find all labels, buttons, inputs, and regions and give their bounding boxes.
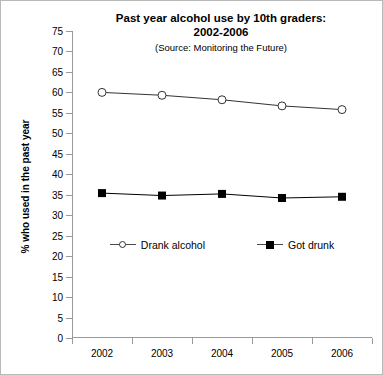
y-tick-label: 30 [23,210,63,221]
y-tick-label: 55 [23,107,63,118]
chart-legend: Drank alcoholGot drunk [72,239,372,251]
legend-marker [266,241,274,249]
data-point-open-circle [158,91,166,99]
data-point-open-circle [278,102,286,110]
y-tick-label: 10 [23,292,63,303]
series-1 [98,88,346,113]
x-tick-mark [132,338,133,344]
legend-label: Drank alcohol [141,239,205,251]
data-point-filled-square [278,194,286,202]
y-tick-label: 60 [23,87,63,98]
x-tick-mark [192,338,193,344]
x-tick-label: 2005 [271,348,293,359]
legend-item-1[interactable]: Drank alcohol [110,239,205,251]
y-tick-label: 65 [23,66,63,77]
y-tick-label: 35 [23,189,63,200]
legend-item-2[interactable]: Got drunk [257,239,334,251]
data-point-open-circle [338,106,346,114]
data-point-filled-square [218,190,226,198]
x-tick-label: 2006 [331,348,353,359]
data-point-filled-square [338,193,346,201]
y-tick-label: 70 [23,46,63,57]
series-2 [98,189,346,202]
data-point-open-circle [98,88,106,96]
legend-marker [119,241,126,248]
data-point-filled-square [158,192,166,200]
data-point-open-circle [218,96,226,104]
x-tick-mark [72,338,73,344]
open-circle-icon [110,240,136,249]
x-tick-label: 2004 [211,348,233,359]
y-tick-label: 75 [23,26,63,37]
y-tick-label: 50 [23,128,63,139]
series-layer [72,31,372,338]
x-tick-label: 2003 [151,348,173,359]
x-tick-mark [372,338,373,344]
plot-area: 051015202530354045505560657075 200220032… [72,31,372,338]
y-tick-label: 0 [23,333,63,344]
legend-label: Got drunk [288,239,334,251]
y-tick-label: 25 [23,230,63,241]
data-point-filled-square [98,189,106,197]
x-tick-mark [312,338,313,344]
y-tick-label: 40 [23,169,63,180]
chart-figure: Past year alcohol use by 10th graders: 2… [0,0,383,375]
y-tick-label: 15 [23,271,63,282]
y-tick-label: 5 [23,312,63,323]
filled-square-icon [257,240,283,249]
y-tick-label: 20 [23,251,63,262]
x-tick-mark [252,338,253,344]
x-tick-label: 2002 [91,348,113,359]
y-tick-label: 45 [23,148,63,159]
